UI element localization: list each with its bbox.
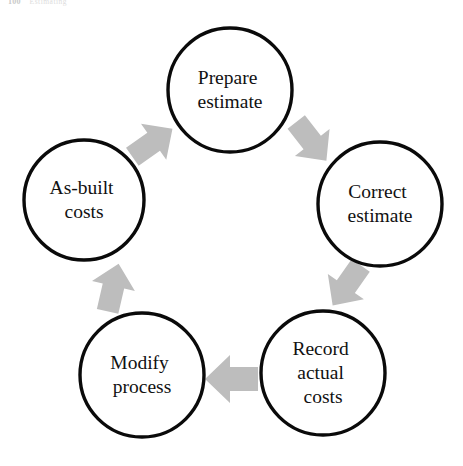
arrow-shape — [86, 259, 140, 317]
node-label-line: Record — [292, 338, 349, 359]
diagram-page: 100 Estimating Prepare — [0, 0, 463, 466]
node-label-line: actual — [297, 362, 344, 383]
node-label-line: costs — [65, 201, 104, 222]
arrow-record-to-modify — [205, 355, 258, 403]
node-label-line: As-built — [50, 177, 115, 198]
node-as-built-costs[interactable]: As-built costs — [24, 140, 144, 260]
node-modify-process[interactable]: Modify process — [80, 313, 204, 437]
node-record-actual-costs[interactable]: Record actual costs — [261, 311, 385, 435]
node-label-line: Correct — [348, 181, 407, 202]
node-circle — [168, 28, 292, 152]
node-label-line: costs — [304, 386, 343, 407]
node-label-line: Prepare — [198, 67, 258, 88]
arrow-shape — [205, 355, 258, 403]
node-correct-estimate[interactable]: Correct estimate — [318, 142, 442, 266]
node-prepare-estimate[interactable]: Prepare estimate — [168, 28, 292, 152]
node-label-line: estimate — [348, 205, 413, 226]
node-label-line: process — [113, 376, 171, 397]
node-label-line: Modify — [110, 352, 169, 373]
node-label-line: estimate — [198, 91, 263, 112]
arrow-modify-to-asbuilt — [86, 259, 140, 317]
node-circle — [318, 142, 442, 266]
cycle-diagram: Prepare estimate Correct estimate Record… — [0, 0, 463, 466]
node-circle — [24, 140, 144, 260]
node-circle — [80, 313, 204, 437]
